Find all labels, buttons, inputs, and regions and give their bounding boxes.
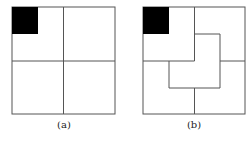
panel-b-line: [195, 34, 246, 61]
diagram-canvas: [0, 0, 252, 144]
caption-b: (b): [174, 119, 214, 130]
panel-b-line: [169, 61, 220, 88]
panel-a-shaded-cell: [12, 7, 38, 34]
panel-b: [143, 7, 245, 114]
panel-a: [12, 7, 115, 114]
caption-a: (a): [44, 119, 84, 130]
panel-b-shaded-cell: [143, 7, 169, 34]
panel-b-line: [143, 34, 195, 61]
